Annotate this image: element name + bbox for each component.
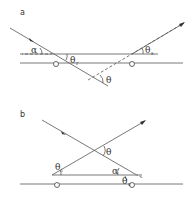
theta-arc-b (103, 146, 105, 156)
atom-a1 (54, 62, 59, 67)
scattered-beam-a (132, 23, 184, 54)
atom-a2 (130, 62, 135, 67)
diffraction-diagram: a α θ r θ s θ b θ i α θ s θ (0, 0, 194, 197)
alpha-label-a: α (31, 45, 37, 55)
theta-i-label: θ (55, 162, 60, 172)
theta-s-label-b: θ (122, 176, 127, 186)
theta-s-arc-a (142, 48, 143, 54)
arrow-in-a (29, 38, 34, 42)
alpha-label-b: α (112, 166, 118, 176)
arrow-out-a (179, 22, 185, 27)
theta-s-label-a: θ (145, 45, 150, 55)
scattered-beam-b (52, 121, 145, 175)
theta-label-b: θ (106, 147, 111, 157)
theta-r-arc (66, 54, 67, 60)
theta-s-sub-b: s (128, 181, 131, 187)
theta-label-a: θ (106, 75, 111, 85)
panel-b-label: b (20, 110, 25, 119)
panel-a-label: a (20, 8, 25, 17)
theta-r-label: θ (70, 55, 75, 65)
arrow-in-b (61, 131, 66, 135)
atom-b1 (55, 183, 60, 188)
arrow-out-b (140, 120, 146, 125)
theta-i-sub: i (61, 167, 63, 173)
alpha-arc-a (40, 48, 42, 54)
theta-s-sub-a: s (151, 50, 154, 56)
